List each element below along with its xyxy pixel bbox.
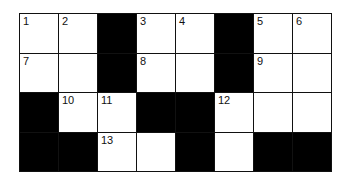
crossword-cell[interactable] (254, 93, 293, 133)
crossword-cell[interactable] (176, 54, 215, 94)
crossword-cell[interactable]: 1 (20, 14, 59, 54)
black-cell (176, 93, 215, 133)
black-cell (293, 133, 332, 173)
black-cell (98, 14, 137, 54)
black-cell (176, 133, 215, 173)
clue-number: 13 (101, 135, 113, 146)
crossword-cell[interactable]: 4 (176, 14, 215, 54)
crossword-cell[interactable] (293, 54, 332, 94)
crossword-cell[interactable]: 11 (98, 93, 137, 133)
crossword-cell[interactable]: 8 (137, 54, 176, 94)
black-cell (215, 54, 254, 94)
crossword-cell[interactable]: 12 (215, 93, 254, 133)
crossword-cell[interactable]: 3 (137, 14, 176, 54)
crossword-cell[interactable] (293, 93, 332, 133)
crossword-cell[interactable] (215, 133, 254, 173)
crossword-cell[interactable] (137, 133, 176, 173)
crossword-cell[interactable] (59, 54, 98, 94)
clue-number: 9 (257, 56, 263, 67)
crossword-cell[interactable]: 10 (59, 93, 98, 133)
crossword-grid: 12345678910111213 (19, 13, 332, 172)
black-cell (137, 93, 176, 133)
clue-number: 2 (62, 16, 68, 27)
crossword-cell[interactable]: 6 (293, 14, 332, 54)
clue-number: 6 (296, 16, 302, 27)
clue-number: 7 (23, 56, 29, 67)
clue-number: 10 (62, 95, 74, 106)
black-cell (254, 133, 293, 173)
crossword-cell[interactable]: 5 (254, 14, 293, 54)
black-cell (59, 133, 98, 173)
black-cell (20, 93, 59, 133)
crossword-cell[interactable]: 2 (59, 14, 98, 54)
clue-number: 8 (140, 56, 146, 67)
clue-number: 11 (101, 95, 112, 106)
crossword-cell[interactable]: 9 (254, 54, 293, 94)
clue-number: 5 (257, 16, 263, 27)
clue-number: 12 (218, 95, 230, 106)
clue-number: 1 (23, 16, 29, 27)
clue-number: 4 (179, 16, 185, 27)
black-cell (215, 14, 254, 54)
black-cell (98, 54, 137, 94)
clue-number: 3 (140, 16, 146, 27)
crossword-cell[interactable]: 13 (98, 133, 137, 173)
crossword-cell[interactable]: 7 (20, 54, 59, 94)
black-cell (20, 133, 59, 173)
